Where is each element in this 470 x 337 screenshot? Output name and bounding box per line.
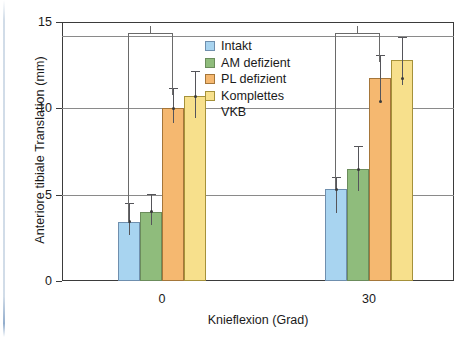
gridline-upper — [62, 36, 454, 37]
errorbar-cap-komplettes-vkb-30 — [398, 37, 407, 38]
y-tick-mark-0 — [56, 281, 62, 282]
significance-bracket-group-0-right-leg — [172, 33, 173, 95]
legend-label-intakt: Intakt — [221, 38, 252, 55]
legend-label-komplettes-vkb: Komplettes — [221, 88, 284, 105]
significance-bracket-group-0-left-leg — [128, 33, 129, 222]
x-tick-label-0: 0 — [132, 292, 192, 306]
bar-pl-defizient-0 — [162, 108, 184, 281]
chart-legend: Intakt AM defizient PL defizient Komplet… — [205, 38, 290, 121]
errorbar-point-komplettes-vkb-30 — [401, 77, 404, 80]
y-tick-label-15: 15 — [10, 15, 52, 29]
significance-bracket-group-0-tick — [150, 26, 151, 34]
legend-item-komplettes-vkb: Komplettes — [205, 88, 290, 105]
bar-komplettes-vkb-0 — [184, 96, 206, 281]
errorbar-cap-am-defizient-30 — [354, 146, 363, 147]
errorbar-cap-komplettes-vkb-0 — [191, 71, 200, 72]
errorbar-point-am-defizient-0 — [150, 210, 153, 213]
legend-label-pl-defizient: PL defizient — [221, 71, 286, 88]
legend-item-pl-defizient: PL defizient — [205, 71, 290, 88]
errorbar-cap-am-defizient-0 — [147, 194, 156, 195]
errorbar-point-komplettes-vkb-0 — [194, 95, 197, 98]
legend-label-vkb: VKB — [221, 104, 246, 121]
y-tick-label-5: 5 — [10, 188, 52, 202]
significance-bracket-group-30-tick — [357, 26, 358, 34]
legend-label-am-defizient: AM defizient — [221, 55, 290, 72]
errorbar-line-pl-defizient-30 — [380, 55, 381, 102]
errorbar-point-pl-defizient-30 — [379, 100, 382, 103]
legend-swatch-pl-defizient — [205, 74, 215, 84]
legend-item-intakt: Intakt — [205, 38, 290, 55]
significance-bracket-group-30-right-leg — [379, 33, 380, 62]
y-tick-label-0: 0 — [10, 274, 52, 288]
chart-figure: Anteriore tibiale Translation (mm) 15 10… — [0, 0, 470, 337]
legend-swatch-intakt — [205, 41, 215, 51]
legend-swatch-am-defizient — [205, 58, 215, 68]
y-tick-label-10: 10 — [10, 101, 52, 115]
legend-item-komplettes-vkb-line2: VKB — [205, 104, 290, 121]
legend-swatch-komplettes-vkb — [205, 91, 215, 101]
errorbar-point-pl-defizient-0 — [172, 107, 175, 110]
bar-pl-defizient-30 — [369, 78, 391, 281]
errorbar-point-am-defizient-30 — [357, 168, 360, 171]
x-tick-label-30: 30 — [339, 292, 399, 306]
significance-bracket-group-30-left-leg — [335, 33, 336, 189]
bar-komplettes-vkb-30 — [391, 60, 413, 281]
x-axis-title: Knieflexion (Grad) — [62, 313, 454, 327]
legend-item-am-defizient: AM defizient — [205, 55, 290, 72]
